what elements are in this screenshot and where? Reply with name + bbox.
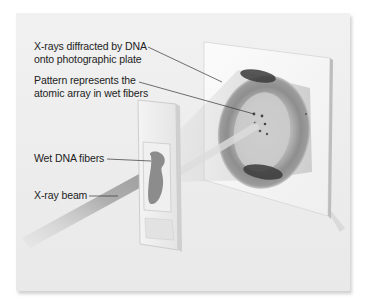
label-wet-dna-fibers: Wet DNA fibers xyxy=(34,152,104,165)
label-pattern-line1: Pattern represents the xyxy=(34,74,136,87)
label-diffracted-line1: X-rays diffracted by DNA xyxy=(34,40,147,53)
label-x-ray-beam: X-ray beam xyxy=(34,189,87,202)
label-diffracted-line2: onto photographic plate xyxy=(34,53,141,66)
x-ray-beam xyxy=(22,168,158,248)
label-pattern-line2: atomic array in wet fibers xyxy=(34,87,148,100)
